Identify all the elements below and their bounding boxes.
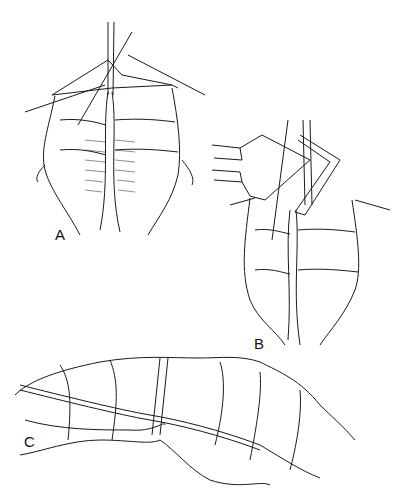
panel-b-drawing: [212, 120, 390, 345]
panel-label-b: B: [254, 335, 264, 352]
panel-a-drawing: [25, 22, 205, 235]
surgical-illustration: [0, 0, 417, 497]
panel-c-drawing: [15, 357, 355, 485]
panel-label-a: A: [55, 226, 65, 243]
panel-label-c: C: [24, 433, 35, 450]
